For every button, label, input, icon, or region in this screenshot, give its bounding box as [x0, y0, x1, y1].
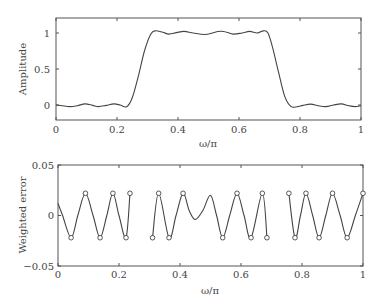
error-band-segment: [58, 193, 130, 238]
y-tick-label: 0.5: [34, 64, 50, 75]
extremal-point-marker: [181, 191, 186, 196]
figure: 00.20.40.60.81 00.51 ω/π Amplitude 00.20…: [0, 0, 384, 307]
weighted-error-plot-frame: [58, 165, 363, 266]
extremal-point-marker: [345, 235, 350, 240]
x-tick-label: 0: [55, 269, 61, 280]
amplitude-plot: 00.20.40.60.81 00.51 ω/π Amplitude: [17, 18, 364, 149]
weighted-error-x-ticks: 00.20.40.60.81: [55, 165, 366, 280]
x-tick-label: 0.6: [233, 269, 249, 280]
amplitude-x-ticks: 00.20.40.60.81: [53, 18, 364, 135]
extremal-point-marker: [260, 191, 265, 196]
y-tick-label: 0: [44, 100, 50, 111]
extremal-point-marker: [220, 235, 225, 240]
x-tick-label: 0.8: [292, 124, 308, 135]
error-band-segment: [289, 193, 363, 238]
weighted-error-x-label: ω/π: [201, 285, 220, 296]
weighted-error-plot: 00.20.40.60.81 −0.0500.05 ω/π Weighted e…: [17, 160, 366, 297]
x-tick-label: 0: [53, 124, 59, 135]
extremal-point-marker: [69, 235, 74, 240]
extremal-point-marker: [361, 191, 366, 196]
amplitude-curve: [56, 31, 361, 108]
x-tick-label: 0.8: [294, 269, 310, 280]
extremal-point-marker: [98, 235, 103, 240]
x-tick-label: 1: [358, 124, 364, 135]
x-tick-label: 0.4: [172, 269, 188, 280]
x-tick-label: 0.4: [170, 124, 186, 135]
extremal-point-marker: [128, 191, 133, 196]
error-band-segment: [153, 193, 267, 238]
y-tick-label: 1: [44, 28, 50, 39]
extremal-point-marker: [249, 235, 254, 240]
extremal-point-marker: [235, 191, 240, 196]
amplitude-y-ticks: 00.51: [34, 28, 361, 111]
weighted-error-y-ticks: −0.0500.05: [23, 160, 363, 272]
extremal-point-marker: [265, 235, 270, 240]
x-tick-label: 1: [360, 269, 366, 280]
extremal-point-marker: [124, 235, 129, 240]
extremal-point-marker: [150, 235, 155, 240]
extremal-point-marker: [330, 191, 335, 196]
extremal-point-marker: [111, 191, 116, 196]
extremal-point-marker: [304, 191, 309, 196]
y-tick-label: −0.05: [23, 261, 54, 272]
amplitude-y-label: Amplitude: [17, 43, 28, 96]
extremal-point-marker: [287, 191, 292, 196]
x-tick-label: 0.2: [109, 124, 125, 135]
extremal-point-marker: [293, 235, 298, 240]
extremal-point-marker: [156, 191, 161, 196]
x-tick-label: 0.6: [231, 124, 247, 135]
amplitude-x-label: ω/π: [199, 138, 218, 149]
extremal-point-marker: [317, 235, 322, 240]
y-tick-label: 0: [48, 210, 54, 221]
extremal-point-marker: [83, 191, 88, 196]
extremal-point-marker: [167, 235, 172, 240]
x-tick-label: 0.2: [111, 269, 127, 280]
y-tick-label: 0.05: [32, 160, 54, 171]
weighted-error-curve: [58, 193, 363, 238]
weighted-error-y-label: Weighted error: [17, 176, 28, 253]
